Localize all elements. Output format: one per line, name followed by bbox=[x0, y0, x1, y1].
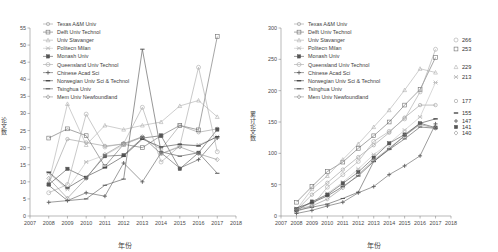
end-label-value: 177 bbox=[462, 98, 471, 104]
x-tick-label: 2009 bbox=[306, 220, 318, 226]
y-tick-label: 150 bbox=[268, 119, 277, 125]
x-tick-label: 2007 bbox=[275, 220, 287, 226]
end-label-229: 229 bbox=[454, 64, 471, 70]
legend: Texas A&M UnivDelft Univ TechnolUniv Sta… bbox=[294, 21, 380, 100]
x-tick-label: 2013 bbox=[368, 220, 380, 226]
right-y-axis-title: 累计论文数 bbox=[249, 111, 255, 141]
y-tick-label: 25 bbox=[20, 128, 26, 134]
x-tick-label: 2010 bbox=[321, 220, 333, 226]
end-label-155: 155 bbox=[454, 110, 472, 116]
series-1 bbox=[295, 103, 437, 212]
y-tick-label: 45 bbox=[20, 59, 26, 65]
left-x-axis-title: 年份 bbox=[0, 240, 249, 250]
end-label-value: 140 bbox=[462, 130, 471, 136]
legend-label: Tsinghua Univ bbox=[57, 86, 91, 92]
left-y-axis-title: 论文数 bbox=[0, 117, 6, 135]
x-tick-label: 2008 bbox=[290, 220, 302, 226]
legend-label: Delft Univ Technol bbox=[308, 29, 351, 35]
legend-label: Norwegian Univ Sci & Technol bbox=[57, 78, 129, 84]
x-tick-label: 2007 bbox=[24, 220, 36, 226]
x-tick-label: 2018 bbox=[445, 220, 457, 226]
right-x-axis-title: 年份 bbox=[249, 240, 498, 250]
chart-panel-cumulative: 累计论文数 年份 0501001502002503002007200820092… bbox=[249, 0, 498, 252]
y-tick-label: 5 bbox=[23, 196, 26, 202]
y-tick-label: 10 bbox=[20, 179, 26, 185]
legend-label: Monash Univ bbox=[308, 53, 340, 59]
end-label-value: 266 bbox=[462, 37, 471, 43]
y-tick-label: 50 bbox=[271, 182, 277, 188]
x-tick-label: 2009 bbox=[61, 220, 73, 226]
end-label-value: 155 bbox=[462, 110, 471, 116]
y-tick-label: 50 bbox=[20, 42, 26, 48]
legend-label: Queensland Univ Technol bbox=[57, 62, 118, 68]
y-tick-label: 200 bbox=[268, 88, 277, 94]
y-tick-label: 35 bbox=[20, 93, 26, 99]
x-tick-label: 2011 bbox=[337, 220, 349, 226]
x-tick-label: 2010 bbox=[80, 220, 92, 226]
y-tick-label: 20 bbox=[20, 145, 26, 151]
legend-label: Tsinghua Univ bbox=[308, 86, 342, 92]
end-label-177: 177 bbox=[454, 98, 471, 104]
series-8 bbox=[47, 137, 220, 188]
end-label-140: 140 bbox=[454, 130, 471, 136]
y-tick-label: 15 bbox=[20, 162, 26, 168]
y-tick-label: 0 bbox=[274, 213, 277, 219]
x-tick-label: 2016 bbox=[193, 220, 205, 226]
x-tick-label: 2017 bbox=[430, 220, 442, 226]
x-tick-label: 2012 bbox=[352, 220, 364, 226]
legend-label: Delft Univ Technol bbox=[57, 29, 100, 35]
legend-label: Monash Univ bbox=[57, 53, 89, 59]
x-tick-label: 2008 bbox=[43, 220, 55, 226]
x-tick-label: 2011 bbox=[99, 220, 111, 226]
legend-label: Univ Stavanger bbox=[308, 37, 345, 43]
right-plot-area: 0501001502002503002007200820092010201120… bbox=[249, 0, 498, 252]
end-label-value: 229 bbox=[462, 64, 471, 70]
x-tick-label: 2014 bbox=[155, 220, 167, 226]
end-label-213: 213 bbox=[454, 74, 472, 80]
x-tick-label: 2015 bbox=[174, 220, 186, 226]
end-label-253: 253 bbox=[454, 46, 471, 52]
y-tick-label: 100 bbox=[268, 150, 277, 156]
legend-label: Mem Univ Newfoundland bbox=[57, 94, 117, 100]
x-tick-label: 2012 bbox=[118, 220, 130, 226]
y-tick-label: 250 bbox=[268, 56, 277, 62]
legend-label: Texas A&M Univ bbox=[57, 21, 97, 27]
legend-label: Texas A&M Univ bbox=[308, 21, 348, 27]
legend-label: Politecn Milan bbox=[308, 45, 342, 51]
series-5 bbox=[47, 128, 219, 186]
series-4 bbox=[47, 135, 220, 191]
y-tick-label: 300 bbox=[268, 25, 277, 31]
series-1 bbox=[47, 124, 219, 186]
series-6 bbox=[47, 65, 220, 194]
legend-label: Chinese Acad Sci bbox=[308, 70, 350, 76]
legend-label: Norwegian Univ Sci & Technol bbox=[308, 78, 380, 84]
x-tick-label: 2013 bbox=[136, 220, 148, 226]
chart-panel-annual: 论文数 年份 051015202530354045505520072008200… bbox=[0, 0, 249, 252]
y-tick-label: 30 bbox=[20, 110, 26, 116]
x-tick-label: 2016 bbox=[414, 220, 426, 226]
end-label-value: 213 bbox=[462, 74, 471, 80]
figure-root: 论文数 年份 051015202530354045505520072008200… bbox=[0, 0, 498, 252]
y-tick-label: 55 bbox=[20, 25, 26, 31]
legend-label: Univ Stavanger bbox=[57, 37, 94, 43]
x-tick-label: 2017 bbox=[211, 220, 223, 226]
x-tick-label: 2018 bbox=[230, 220, 242, 226]
legend-label: Chinese Acad Sci bbox=[57, 70, 99, 76]
series-4 bbox=[294, 81, 437, 211]
x-tick-label: 2015 bbox=[399, 220, 411, 226]
y-tick-label: 0 bbox=[23, 213, 26, 219]
series-8 bbox=[294, 119, 437, 208]
left-plot-area: 0510152025303540455055200720082009201020… bbox=[0, 0, 249, 252]
x-tick-label: 2014 bbox=[383, 220, 395, 226]
series-10 bbox=[47, 135, 219, 201]
end-label-266: 266 bbox=[454, 37, 471, 43]
end-label-value: 253 bbox=[462, 46, 471, 52]
legend-label: Queensland Univ Technol bbox=[308, 62, 369, 68]
legend-label: Mem Univ Newfoundland bbox=[308, 94, 368, 100]
legend-label: Politecn Milan bbox=[57, 45, 91, 51]
legend: Texas A&M UnivDelft Univ TechnolUniv Sta… bbox=[43, 21, 129, 100]
y-tick-label: 40 bbox=[20, 76, 26, 82]
